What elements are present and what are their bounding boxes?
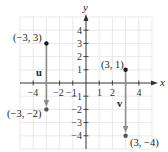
y-tick-label: −2 bbox=[71, 104, 82, 115]
point-v-end bbox=[123, 134, 127, 138]
vector-v-arrowhead-icon bbox=[123, 126, 129, 133]
y-axis-label: y bbox=[82, 1, 88, 13]
y-tick-label: 3 bbox=[77, 38, 82, 49]
point-label-v-start: (3, 1) bbox=[101, 59, 124, 71]
x-axis-arrow-icon bbox=[151, 81, 158, 86]
coordinate-plane-figure: x y −4 −2 −1 1 2 4 4 3 2 1 bbox=[0, 0, 168, 152]
y-tick-label: 4 bbox=[77, 25, 82, 36]
y-tick-label: 1 bbox=[77, 64, 82, 75]
point-v-start bbox=[123, 68, 127, 72]
vector-u: u (−3, 3) (−3, −2) bbox=[7, 32, 49, 120]
point-u-start bbox=[44, 41, 48, 45]
vector-v-label: v bbox=[117, 98, 123, 109]
y-tick-label: −3 bbox=[71, 117, 82, 128]
point-u-end bbox=[44, 107, 48, 111]
y-axis-arrow-icon bbox=[84, 14, 89, 21]
point-label-v-end: (3, −4) bbox=[130, 137, 159, 149]
vector-u-label: u bbox=[36, 67, 42, 78]
x-tick-label: 1 bbox=[97, 87, 102, 98]
x-axis-label: x bbox=[159, 76, 165, 88]
vector-u-arrowhead-icon bbox=[44, 100, 50, 107]
y-tick-label: −4 bbox=[71, 130, 82, 141]
x-tick-label: 2 bbox=[110, 87, 115, 98]
y-tick-label: 2 bbox=[77, 51, 82, 62]
point-label-u-start: (−3, 3) bbox=[13, 32, 42, 44]
x-tick-label: −2 bbox=[53, 87, 64, 98]
point-label-u-end: (−3, −2) bbox=[7, 108, 42, 120]
y-axis: y bbox=[82, 1, 89, 149]
x-tick-label: 4 bbox=[137, 87, 142, 98]
y-tick-label: −1 bbox=[71, 91, 82, 102]
x-tick-label: −4 bbox=[28, 87, 39, 98]
